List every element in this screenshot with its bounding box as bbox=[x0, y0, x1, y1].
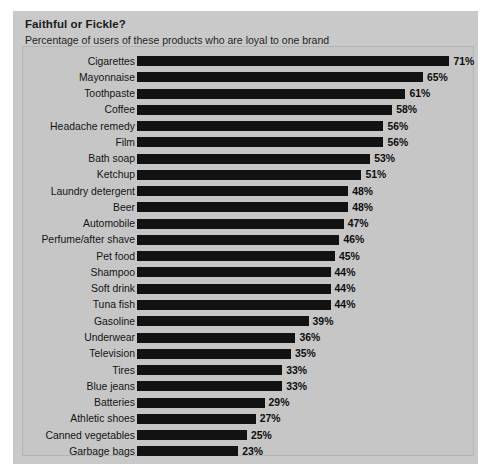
bar-row: Automobile47% bbox=[23, 217, 473, 233]
bar-category-label: Garbage bags bbox=[0, 445, 135, 458]
bar-row: Blue jeans33% bbox=[23, 379, 473, 395]
bar-category-label: Automobile bbox=[0, 217, 135, 230]
bar-category-label: Batteries bbox=[0, 396, 135, 409]
bar-fill bbox=[137, 284, 331, 294]
bar-track: 35% bbox=[137, 349, 467, 359]
bar-row: Cigarettes71% bbox=[23, 54, 473, 70]
bar-value-label: 44% bbox=[335, 298, 356, 311]
chart-panel: Faithful or Fickle? Percentage of users … bbox=[13, 11, 478, 464]
bar-category-label: Bath soap bbox=[0, 152, 135, 165]
bar-row: Shampoo44% bbox=[23, 265, 473, 281]
bar-fill bbox=[137, 349, 291, 359]
bar-fill bbox=[137, 219, 344, 229]
bar-track: 56% bbox=[137, 121, 467, 131]
bar-fill bbox=[137, 414, 256, 424]
bar-category-label: Cigarettes bbox=[0, 55, 135, 68]
bar-value-label: 61% bbox=[409, 87, 430, 100]
bar-fill bbox=[137, 430, 247, 440]
bar-category-label: Laundry detergent bbox=[0, 185, 135, 198]
bar-category-label: Headache remedy bbox=[0, 120, 135, 133]
bar-fill bbox=[137, 170, 361, 180]
bar-row: Coffee58% bbox=[23, 103, 473, 119]
bar-value-label: 27% bbox=[260, 412, 281, 425]
bar-fill bbox=[137, 202, 348, 212]
bar-category-label: Athletic shoes bbox=[0, 412, 135, 425]
bar-row: Garbage bags23% bbox=[23, 444, 473, 460]
bar-track: 39% bbox=[137, 316, 467, 326]
bar-row: Toothpaste61% bbox=[23, 87, 473, 103]
bar-value-label: 36% bbox=[299, 331, 320, 344]
bar-fill bbox=[137, 56, 449, 66]
bar-track: 71% bbox=[137, 56, 467, 66]
bar-value-label: 48% bbox=[352, 201, 373, 214]
bar-track: 61% bbox=[137, 89, 467, 99]
bar-category-label: Gasoline bbox=[0, 315, 135, 328]
bar-category-label: Canned vegetables bbox=[0, 429, 135, 442]
bar-fill bbox=[137, 186, 348, 196]
bar-track: 58% bbox=[137, 105, 467, 115]
bar-value-label: 51% bbox=[365, 168, 386, 181]
bar-category-label: Film bbox=[0, 136, 135, 149]
bar-category-label: Underwear bbox=[0, 331, 135, 344]
bar-value-label: 29% bbox=[269, 396, 290, 409]
bar-rows-container: Cigarettes71%Mayonnaise65%Toothpaste61%C… bbox=[23, 54, 473, 461]
bar-row: Film56% bbox=[23, 135, 473, 151]
bar-row: Soft drink44% bbox=[23, 282, 473, 298]
bar-value-label: 23% bbox=[242, 445, 263, 458]
bar-track: 48% bbox=[137, 186, 467, 196]
bar-track: 27% bbox=[137, 414, 467, 424]
bar-track: 56% bbox=[137, 137, 467, 147]
bar-fill bbox=[137, 398, 265, 408]
bar-category-label: Pet food bbox=[0, 250, 135, 263]
bar-value-label: 48% bbox=[352, 185, 373, 198]
bar-track: 23% bbox=[137, 446, 467, 456]
bar-track: 44% bbox=[137, 284, 467, 294]
bar-fill bbox=[137, 137, 383, 147]
bar-row: Ketchup51% bbox=[23, 168, 473, 184]
bar-track: 47% bbox=[137, 219, 467, 229]
bar-row: Athletic shoes27% bbox=[23, 412, 473, 428]
bar-track: 36% bbox=[137, 333, 467, 343]
bar-row: Headache remedy56% bbox=[23, 119, 473, 135]
bar-value-label: 44% bbox=[335, 266, 356, 279]
bar-fill bbox=[137, 89, 405, 99]
bar-row: Perfume/after shave46% bbox=[23, 233, 473, 249]
bar-value-label: 33% bbox=[286, 364, 307, 377]
bar-fill bbox=[137, 333, 295, 343]
bar-value-label: 25% bbox=[251, 429, 272, 442]
bar-row: Batteries29% bbox=[23, 396, 473, 412]
bar-value-label: 33% bbox=[286, 380, 307, 393]
bar-row: Laundry detergent48% bbox=[23, 184, 473, 200]
bar-track: 46% bbox=[137, 235, 467, 245]
bar-track: 45% bbox=[137, 251, 467, 261]
bar-fill bbox=[137, 105, 392, 115]
bar-value-label: 39% bbox=[313, 315, 334, 328]
bar-value-label: 44% bbox=[335, 282, 356, 295]
chart-header: Faithful or Fickle? Percentage of users … bbox=[25, 17, 465, 47]
bar-category-label: Blue jeans bbox=[0, 380, 135, 393]
bar-value-label: 53% bbox=[374, 152, 395, 165]
bar-category-label: Television bbox=[0, 347, 135, 360]
bar-value-label: 56% bbox=[387, 136, 408, 149]
bar-track: 44% bbox=[137, 267, 467, 277]
bar-value-label: 47% bbox=[348, 217, 369, 230]
bar-track: 53% bbox=[137, 154, 467, 164]
chart-subtitle: Percentage of users of these products wh… bbox=[25, 33, 465, 47]
bar-track: 51% bbox=[137, 170, 467, 180]
bar-value-label: 35% bbox=[295, 347, 316, 360]
bar-value-label: 46% bbox=[343, 233, 364, 246]
bar-fill bbox=[137, 235, 339, 245]
bar-row: Tires33% bbox=[23, 363, 473, 379]
bar-track: 44% bbox=[137, 300, 467, 310]
bar-category-label: Perfume/after shave bbox=[0, 233, 135, 246]
bar-track: 48% bbox=[137, 202, 467, 212]
bar-category-label: Soft drink bbox=[0, 282, 135, 295]
bar-value-label: 71% bbox=[453, 55, 474, 68]
bar-value-label: 65% bbox=[427, 71, 448, 84]
bar-fill bbox=[137, 300, 331, 310]
bar-row: Gasoline39% bbox=[23, 314, 473, 330]
bar-row: Pet food45% bbox=[23, 249, 473, 265]
bar-fill bbox=[137, 267, 331, 277]
bar-row: Bath soap53% bbox=[23, 152, 473, 168]
bar-fill bbox=[137, 154, 370, 164]
